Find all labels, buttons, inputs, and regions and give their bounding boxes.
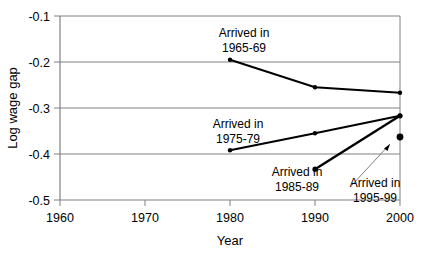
- annotation-1995-99: Arrived in 1995-99: [350, 176, 401, 205]
- data-point-1965-69-1980: [228, 58, 232, 62]
- y-axis-ticks: [54, 16, 60, 200]
- annotation-1965-69-line1: Arrived in: [219, 26, 270, 40]
- annotation-1985-89-line2: 1985-89: [275, 180, 319, 194]
- annotation-1965-69-line2: 1965-69: [222, 41, 266, 55]
- annotation-1965-69: Arrived in 1965-69: [219, 26, 270, 55]
- data-point-1995-99-2000: [397, 134, 404, 141]
- annotation-1995-99-line1: Arrived in: [350, 176, 401, 190]
- y-axis-title: Log wage gap: [5, 67, 20, 149]
- x-axis-title: Year: [217, 233, 244, 248]
- annotation-1975-79: Arrived in 1975-79: [213, 117, 264, 146]
- xtick-label-1980: 1980: [216, 211, 244, 225]
- data-point-1975-79-1980: [228, 148, 232, 152]
- annotation-1975-79-line2: 1975-79: [216, 132, 260, 146]
- data-point-1975-79-1990: [313, 131, 317, 135]
- data-point-1965-69-1990: [313, 85, 317, 89]
- xtick-label-1970: 1970: [131, 211, 159, 225]
- data-point-1965-69-2000: [398, 91, 402, 95]
- annotation-1995-99-line2: 1995-99: [353, 191, 397, 205]
- annotation-1985-89-line1: Arrived in: [272, 165, 323, 179]
- ytick-label--0.3: -0.3: [28, 102, 50, 116]
- xtick-label-1960: 1960: [46, 211, 74, 225]
- line-chart: -0.1 -0.2 -0.3 -0.4 -0.5 1960 1970 1980 …: [0, 0, 437, 257]
- data-point-1985-89-2000: [397, 113, 402, 118]
- x-axis-ticks: [60, 200, 400, 206]
- chart-container: -0.1 -0.2 -0.3 -0.4 -0.5 1960 1970 1980 …: [0, 0, 437, 257]
- ytick-label--0.4: -0.4: [28, 148, 50, 162]
- ytick-label--0.1: -0.1: [28, 10, 50, 24]
- xtick-label-1990: 1990: [301, 211, 329, 225]
- annotation-1975-79-line1: Arrived in: [213, 117, 264, 131]
- series-arrived-1995-99: [397, 134, 404, 141]
- ytick-label--0.5: -0.5: [28, 194, 50, 208]
- xtick-label-2000: 2000: [386, 211, 414, 225]
- ytick-label--0.2: -0.2: [28, 56, 50, 70]
- annotation-1985-89: Arrived in 1985-89: [272, 165, 323, 194]
